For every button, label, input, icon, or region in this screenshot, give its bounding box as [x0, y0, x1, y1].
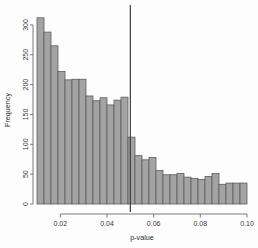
x-axis-tick-label: 0.02 — [54, 220, 68, 227]
histogram-bar — [191, 178, 198, 204]
x-axis-title: p-value — [130, 233, 154, 242]
histogram-bar — [177, 174, 184, 204]
histogram-bar — [205, 177, 212, 204]
histogram-bar — [37, 18, 44, 204]
y-axis-tick-label: 50 — [22, 170, 29, 178]
histogram-bar — [212, 174, 219, 204]
histogram-bar — [93, 101, 100, 204]
histogram-bar — [128, 137, 135, 204]
histogram-bar — [240, 183, 247, 204]
y-axis-tick-label: 150 — [22, 109, 29, 121]
chart-canvas: 050100150200250300 0.020.040.060.080.10 … — [0, 0, 258, 248]
histogram-bar — [107, 105, 114, 204]
histogram-bar — [65, 80, 72, 204]
histogram-bar — [170, 175, 177, 204]
histogram-bar — [86, 96, 93, 204]
histogram-bar — [44, 32, 51, 204]
histogram-bar — [226, 183, 233, 204]
y-axis-tick-label: 100 — [22, 138, 29, 150]
histogram-plot: 050100150200250300 0.020.040.060.080.10 … — [0, 0, 258, 248]
histogram-bar — [58, 71, 65, 204]
y-axis-tick-label: 200 — [22, 79, 29, 91]
histogram-bar — [163, 175, 170, 204]
y-axis-tick-label: 300 — [22, 19, 29, 31]
histogram-bar — [219, 184, 226, 204]
histogram-bar — [135, 156, 142, 204]
y-axis-tick-label: 0 — [22, 202, 29, 206]
x-axis-tick-label: 0.10 — [240, 220, 254, 227]
histogram-bar — [184, 177, 191, 204]
histogram-bar — [121, 97, 128, 204]
histogram-bar — [72, 79, 79, 204]
x-axis-tick-label: 0.06 — [147, 220, 161, 227]
histogram-bar — [149, 157, 156, 204]
histogram-bar — [79, 79, 86, 204]
histogram-bar — [156, 171, 163, 204]
x-axis-tick-label: 0.04 — [100, 220, 114, 227]
histogram-bar — [198, 180, 205, 204]
histogram-bar — [114, 100, 121, 204]
histogram-bar — [100, 98, 107, 204]
x-axis-tick-label: 0.08 — [194, 220, 208, 227]
histogram-bar — [233, 183, 240, 204]
y-axis-tick-label: 250 — [22, 49, 29, 61]
histogram-bar — [142, 160, 149, 204]
histogram-bar — [51, 46, 58, 204]
y-axis-title: Frequency — [3, 93, 12, 127]
